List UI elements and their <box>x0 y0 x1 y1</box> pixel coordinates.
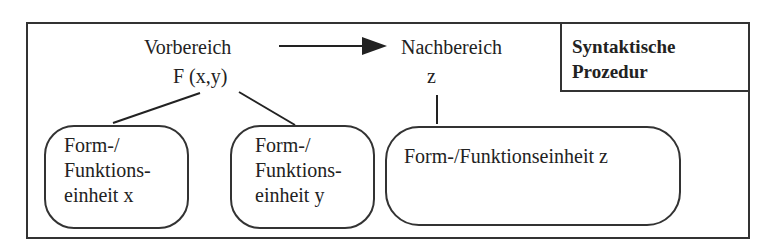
node-x-line3: einheit x <box>64 183 187 208</box>
node-x-line2: Funktions- <box>64 158 187 183</box>
node-y-line1: Form-/ <box>255 133 373 158</box>
node-unit-y: Form-/ Funktions- einheit y <box>230 125 375 229</box>
node-y-line3: einheit y <box>255 183 373 208</box>
node-y-line2: Funktions- <box>255 158 373 183</box>
node-unit-z: Form-/Funktionseinheit z <box>385 126 681 226</box>
node-unit-x: Form-/ Funktions- einheit x <box>44 125 189 229</box>
codomain-label: Nachbereich <box>401 35 502 59</box>
edge-to-y <box>239 92 295 125</box>
codomain-var: z <box>427 64 436 88</box>
domain-formula: F (x,y) <box>173 64 227 88</box>
node-x-line1: Form-/ <box>64 133 187 158</box>
arrow-head-icon <box>362 37 387 55</box>
edge-to-x <box>113 93 200 123</box>
node-z-line1: Form-/Funktionseinheit z <box>404 144 679 169</box>
domain-label: Vorbereich <box>144 35 231 59</box>
